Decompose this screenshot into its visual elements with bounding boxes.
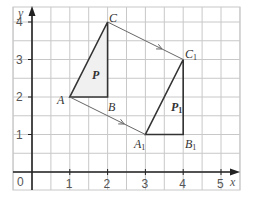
axis-ticks: 123451234 <box>16 15 224 191</box>
x-tick-label: 3 <box>141 177 148 191</box>
vertex-label-c1: C1 <box>185 47 197 62</box>
y-tick-label: 1 <box>16 128 23 142</box>
x-tick-label: 4 <box>179 177 186 191</box>
shape-label-p: P <box>92 68 100 82</box>
origin-label: 0 <box>17 175 24 189</box>
vertex-label-c: C <box>109 11 118 25</box>
x-tick-label: 5 <box>217 177 224 191</box>
shape-label-p1: P1 <box>171 100 182 115</box>
x-tick-label: 2 <box>104 177 111 191</box>
translation-diagram: 123451234 x y 0 A B C P A1 B1 C1 P1 <box>0 0 253 201</box>
y-tick-label: 2 <box>16 90 23 104</box>
vertex-label-a1: A1 <box>133 137 145 152</box>
y-axis-label: y <box>17 6 24 20</box>
x-tick-label: 1 <box>66 177 73 191</box>
vertex-label-b1: B1 <box>185 137 196 152</box>
y-tick-label: 3 <box>16 53 23 67</box>
grid-lines <box>13 7 240 190</box>
vertex-label-a: A <box>56 93 65 107</box>
vertex-label-b: B <box>108 100 116 114</box>
x-axis-label: x <box>229 175 236 189</box>
